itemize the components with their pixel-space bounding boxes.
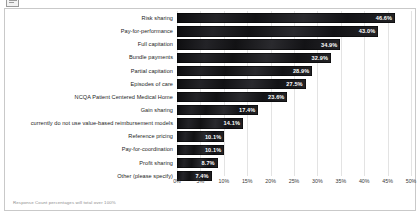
bar[interactable]: 10.1%	[177, 131, 224, 141]
bar-value-label: 10.1%	[205, 134, 221, 140]
bar[interactable]: 14.1%	[177, 118, 243, 128]
bar-value-label: 28.9%	[293, 68, 309, 74]
bar-fill: 23.6%	[177, 92, 287, 102]
chart-container: Risk sharing46.6%Pay-for-performance43.0…	[4, 8, 416, 211]
category-label: Full capitation	[5, 38, 173, 51]
bar[interactable]: 17.4%	[177, 105, 258, 115]
x-tick-label: 0%	[173, 178, 181, 184]
bar-fill: 8.7%	[177, 158, 218, 168]
bar-value-label: 23.6%	[268, 94, 284, 100]
x-tick-label: 40%	[359, 178, 370, 184]
bar-row[interactable]: Bundle payments32.9%	[5, 51, 415, 64]
bar-fill: 43.0%	[177, 26, 378, 36]
bar-value-label: 17.4%	[239, 107, 255, 113]
window-icon	[6, 0, 19, 7]
category-label: NCQA Patient Centered Medical Home	[5, 91, 173, 104]
bar-row[interactable]: Partial capitation28.9%	[5, 65, 415, 78]
category-label: Reference pricing	[5, 130, 173, 143]
bar[interactable]: 8.7%	[177, 158, 218, 168]
bar-fill: 10.1%	[177, 145, 224, 155]
bar-fill: 14.1%	[177, 118, 243, 128]
chart-screenshot: Risk sharing46.6%Pay-for-performance43.0…	[0, 0, 420, 219]
bar-row[interactable]: Full capitation34.9%	[5, 38, 415, 51]
bar-fill: 46.6%	[177, 13, 395, 23]
bar-value-label: 32.9%	[312, 55, 328, 61]
bar[interactable]: 10.1%	[177, 145, 224, 155]
bar-value-label: 14.1%	[224, 120, 240, 126]
bar-row[interactable]: NCQA Patient Centered Medical Home23.6%	[5, 91, 415, 104]
category-label: Bundle payments	[5, 51, 173, 64]
bar-value-label: 10.1%	[205, 147, 221, 153]
bar[interactable]: 34.9%	[177, 39, 340, 49]
bar-row[interactable]: Episodes of care27.5%	[5, 78, 415, 91]
bar[interactable]: 32.9%	[177, 53, 331, 63]
bar-value-label: 27.5%	[286, 81, 302, 87]
x-tick-label: 50%	[406, 178, 417, 184]
bar-fill: 10.1%	[177, 131, 224, 141]
x-tick-label: 15%	[242, 178, 253, 184]
bar-value-label: 34.9%	[321, 42, 337, 48]
x-axis: 0%5%10%15%20%25%30%35%40%45%50%	[5, 178, 415, 188]
x-tick-label: 5%	[197, 178, 205, 184]
bar-row[interactable]: Pay-for-coordination10.1%	[5, 143, 415, 156]
bar-row[interactable]: Pay-for-performance43.0%	[5, 25, 415, 38]
category-label: Profit sharing	[5, 157, 173, 170]
category-label: Episodes of care	[5, 78, 173, 91]
bar[interactable]: 27.5%	[177, 79, 306, 89]
bar-fill: 28.9%	[177, 66, 312, 76]
category-label: Pay-for-coordination	[5, 143, 173, 156]
bar[interactable]: 23.6%	[177, 92, 287, 102]
bar-fill: 32.9%	[177, 53, 331, 63]
bar[interactable]: 43.0%	[177, 26, 378, 36]
x-tick-label: 20%	[265, 178, 276, 184]
x-tick-label: 30%	[312, 178, 323, 184]
bar[interactable]: 28.9%	[177, 66, 312, 76]
x-tick-label: 35%	[335, 178, 346, 184]
category-label: Pay-for-performance	[5, 25, 173, 38]
x-tick-label: 45%	[382, 178, 393, 184]
bar-row[interactable]: Risk sharing46.6%	[5, 12, 415, 25]
bar-row[interactable]: Gain sharing17.4%	[5, 104, 415, 117]
bar-row[interactable]: Profit sharing8.7%	[5, 157, 415, 170]
footnote: Response Count percentages will total ov…	[13, 200, 116, 205]
bar[interactable]: 46.6%	[177, 13, 395, 23]
category-label: Partial capitation	[5, 65, 173, 78]
bar-value-label: 8.7%	[202, 160, 215, 166]
category-label: Gain sharing	[5, 104, 173, 117]
x-tick-label: 10%	[218, 178, 229, 184]
plot-area: Risk sharing46.6%Pay-for-performance43.0…	[5, 9, 415, 210]
category-label: Risk sharing	[5, 12, 173, 25]
bar-rows: Risk sharing46.6%Pay-for-performance43.0…	[5, 12, 415, 183]
bar-fill: 34.9%	[177, 39, 340, 49]
category-label: currently do not use value-based reimbur…	[5, 117, 173, 130]
bar-row[interactable]: currently do not use value-based reimbur…	[5, 117, 415, 130]
bar-row[interactable]: Reference pricing10.1%	[5, 130, 415, 143]
x-tick-label: 25%	[289, 178, 300, 184]
bar-fill: 17.4%	[177, 105, 258, 115]
bar-fill: 27.5%	[177, 79, 306, 89]
bar-value-label: 43.0%	[359, 28, 375, 34]
bar-value-label: 46.6%	[376, 15, 392, 21]
